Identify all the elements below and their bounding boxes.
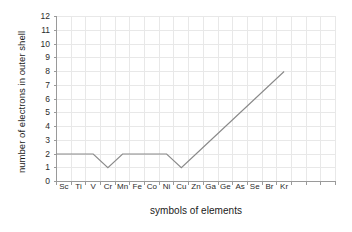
x-axis-tick-label: Zn — [191, 182, 200, 192]
y-axis-tick-label: 12 — [30, 12, 50, 21]
y-axis-tick-label: 10 — [30, 40, 50, 49]
x-axis-tick-label: Sc — [59, 182, 68, 192]
y-axis-tick-label: 3 — [30, 136, 50, 145]
x-axis-tick-label: Ge — [220, 182, 231, 192]
x-axis-tick-label: Cr — [104, 182, 112, 192]
x-axis-title: symbols of elements — [56, 205, 336, 216]
horizontal-gridlines — [57, 17, 336, 168]
y-axis-tick-label: 11 — [30, 26, 50, 35]
x-axis-tick-label: Cu — [176, 182, 186, 192]
x-axis-tick-label: Ni — [163, 182, 171, 192]
y-axis-tick-label: 5 — [30, 108, 50, 117]
x-axis-tick-label: As — [235, 182, 244, 192]
y-axis-tick-label: 1 — [30, 163, 50, 172]
y-axis-tick-label: 6 — [30, 95, 50, 104]
x-axis-tick-label: Ga — [205, 182, 216, 192]
chart-container: 0123456789101112 ScTiVCrMnFeCoNiCuZnGaGe… — [0, 0, 352, 232]
x-axis-tick-label: Mn — [117, 182, 128, 192]
x-axis-tick-label: Se — [250, 182, 260, 192]
y-axis-title: number of electrons in outer shell — [14, 7, 30, 197]
x-axis-tick-label: Co — [147, 182, 157, 192]
y-axis-tick-label: 7 — [30, 81, 50, 90]
x-axis-tick-label: Br — [265, 182, 273, 192]
y-axis-tick-label: 9 — [30, 53, 50, 62]
x-axis-tick-label: Kr — [280, 182, 288, 192]
data-series-line — [57, 72, 285, 168]
x-axis-tick-labels: ScTiVCrMnFeCoNiCuZnGaGeAsSeBrKr — [0, 182, 352, 196]
y-axis-tick-labels: 0123456789101112 — [30, 0, 50, 232]
y-axis-tick-label: 4 — [30, 122, 50, 131]
x-axis-tick-label: Ti — [75, 182, 81, 192]
y-axis-tick-label: 8 — [30, 67, 50, 76]
line-chart-plot — [0, 0, 352, 232]
x-axis-tick-label: V — [91, 182, 96, 192]
y-axis-tick-label: 2 — [30, 150, 50, 159]
x-axis-tick-label: Fe — [133, 182, 142, 192]
